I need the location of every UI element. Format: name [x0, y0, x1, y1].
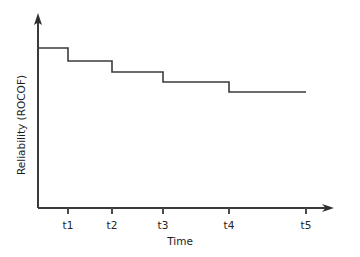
reliability-rocof-step-chart: t1 t2 t3 t4 t5 Time Reliability (ROCOF) [0, 0, 360, 257]
x-tick-label-t4: t4 [224, 219, 235, 231]
x-tick-label-t3: t3 [158, 219, 169, 231]
y-axis-title: Reliability (ROCOF) [15, 75, 27, 175]
chart-screenshot: t1 t2 t3 t4 t5 Time Reliability (ROCOF) [0, 0, 360, 257]
x-axis-title: Time [166, 235, 193, 247]
x-tick-label-t2: t2 [107, 219, 118, 231]
x-tick-label-t5: t5 [301, 219, 312, 231]
x-tick-label-t1: t1 [63, 219, 74, 231]
